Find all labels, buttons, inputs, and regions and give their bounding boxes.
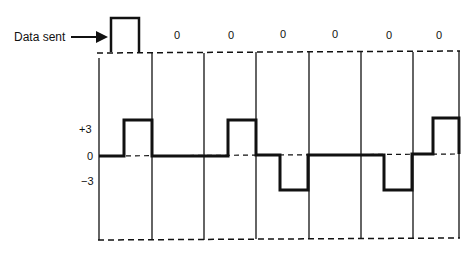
bit-label-6: 0 [436, 29, 442, 41]
arrow-right-icon [71, 31, 108, 43]
line-coding-diagram: Data sent 0 0 0 0 0 0 +3 0 −3 [0, 0, 474, 254]
level-label-plus3: +3 [79, 123, 92, 135]
bit-label-4: 0 [332, 28, 338, 40]
bit-label-2: 0 [228, 29, 234, 41]
level-label-zero: 0 [87, 150, 93, 162]
bit-label-5: 0 [386, 29, 392, 41]
data-sent-label: Data sent [14, 30, 66, 44]
bit-labels: 0 0 0 0 0 0 [174, 28, 442, 41]
level-label-minus3: −3 [81, 175, 94, 187]
data-sent-pulse [111, 18, 139, 52]
top-dashed-line [97, 51, 460, 53]
bit-label-1: 0 [174, 29, 180, 41]
bit-label-3: 0 [280, 28, 286, 40]
